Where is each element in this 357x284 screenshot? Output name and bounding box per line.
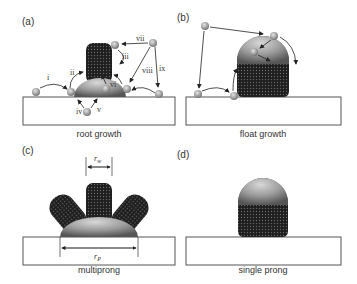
step-label: viii: [142, 66, 153, 75]
catalyst-particle: [74, 78, 126, 97]
adatom: [149, 39, 157, 47]
panel-c: (c) rw rP multiprong: [22, 145, 175, 275]
panel-label-c: (c): [22, 145, 34, 156]
adatom: [194, 90, 202, 98]
step-label: ii: [70, 68, 75, 77]
substrate: [186, 97, 341, 125]
adatom: [201, 22, 209, 30]
panel-label-b: (b): [177, 12, 189, 23]
panel-d: (d) single prong: [177, 149, 341, 275]
step-label: iii: [122, 52, 129, 61]
step-label: v: [97, 105, 101, 114]
panel-label-d: (d): [177, 149, 189, 160]
adatom: [250, 48, 258, 56]
caption-c: multiprong: [78, 265, 120, 275]
adatom: [32, 88, 40, 96]
panel-b: (b) float growth: [177, 12, 341, 139]
adatom: [123, 85, 131, 93]
panel-a: (a) i ii iii iv v vi: [22, 16, 175, 139]
step-label: vii: [136, 34, 145, 43]
adatom: [102, 85, 110, 93]
step-label: i: [47, 73, 50, 82]
figure-canvas: (a) i ii iii iv v vi: [0, 0, 357, 284]
adatom: [230, 92, 238, 100]
adatom: [67, 88, 75, 96]
substrate: [186, 237, 341, 265]
dimension-label-rw: rw: [94, 154, 101, 164]
caption-d: single prong: [238, 265, 287, 275]
catalyst-particle: [237, 36, 289, 64]
step-label: vi: [110, 80, 117, 89]
catalyst-particle: [238, 178, 288, 205]
adatom: [83, 108, 91, 116]
caption-b: float growth: [240, 129, 287, 139]
adatom: [155, 90, 163, 98]
caption-a: root growth: [76, 129, 121, 139]
step-label: ix: [159, 64, 165, 73]
panel-label-a: (a): [22, 16, 34, 27]
step-label: iv: [76, 107, 82, 116]
adatom: [270, 32, 278, 40]
nanowire: [86, 43, 112, 83]
adatom: [111, 41, 119, 49]
